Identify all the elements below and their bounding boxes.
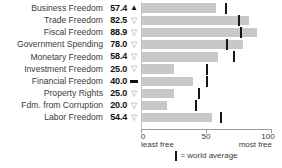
chart-row: Trade Freedom 82.5 ▽ bbox=[0, 14, 272, 26]
score-bar bbox=[141, 16, 249, 25]
legend-label: = world average bbox=[180, 152, 237, 160]
chart-rows: Business Freedom 57.4 ▲ Trade Freedom 82… bbox=[0, 2, 272, 124]
trend-down-icon: ▽ bbox=[127, 114, 141, 122]
score-bar bbox=[141, 77, 193, 86]
trend-down-icon: ▽ bbox=[127, 53, 141, 61]
score-bar bbox=[141, 89, 174, 98]
score-value: 54.4 bbox=[103, 113, 127, 122]
score-bar bbox=[141, 52, 218, 61]
bar-track bbox=[141, 87, 272, 99]
trend-down-icon: ▽ bbox=[127, 65, 141, 73]
no-change-dash bbox=[130, 80, 138, 83]
score-value: 20.0 bbox=[103, 101, 127, 110]
category-label: Trade Freedom bbox=[0, 16, 103, 25]
category-label: Property Rights bbox=[0, 89, 103, 98]
y-axis-line bbox=[141, 2, 142, 130]
category-label: Fdm. from Corruption bbox=[0, 101, 103, 110]
score-bar bbox=[141, 64, 174, 73]
score-value: 58.4 bbox=[103, 52, 127, 61]
category-label: Investment Freedom bbox=[0, 65, 103, 74]
score-value: 88.9 bbox=[103, 28, 127, 37]
bar-track bbox=[141, 2, 272, 14]
chart-row: Investment Freedom 25.0 ▽ bbox=[0, 63, 272, 75]
chart-row: Government Spending 78.0 ▽ bbox=[0, 39, 272, 51]
world-average-marker bbox=[225, 3, 227, 14]
bar-track bbox=[141, 26, 272, 38]
score-bar bbox=[141, 113, 212, 122]
no-change-icon bbox=[127, 77, 141, 85]
world-average-marker bbox=[240, 27, 242, 38]
world-average-marker bbox=[220, 112, 222, 123]
category-label: Labor Freedom bbox=[0, 113, 103, 122]
trend-down-icon: ▽ bbox=[127, 29, 141, 37]
world-average-marker bbox=[206, 76, 208, 87]
chart-row: Fdm. from Corruption 20.0 ▽ bbox=[0, 100, 272, 112]
world-average-legend-icon bbox=[175, 151, 177, 161]
chart-row: Labor Freedom 54.4 ▽ bbox=[0, 112, 272, 124]
category-label: Business Freedom bbox=[0, 4, 103, 13]
score-bar bbox=[141, 101, 167, 110]
score-value: 40.0 bbox=[103, 77, 127, 86]
bar-track bbox=[141, 39, 272, 51]
chart-row: Financial Freedom 40.0 bbox=[0, 75, 272, 87]
bar-track bbox=[141, 51, 272, 63]
score-value: 82.5 bbox=[103, 16, 127, 25]
bar-track bbox=[141, 112, 272, 124]
trend-down-icon: ▽ bbox=[127, 41, 141, 49]
score-bar bbox=[141, 3, 216, 12]
score-value: 78.0 bbox=[103, 40, 127, 49]
chart-row: Property Rights 25.0 ▽ bbox=[0, 87, 272, 99]
trend-down-icon: ▽ bbox=[127, 17, 141, 25]
score-value: 25.0 bbox=[103, 89, 127, 98]
trend-down-icon: ▽ bbox=[127, 102, 141, 110]
economic-freedoms-chart: Business Freedom 57.4 ▲ Trade Freedom 82… bbox=[0, 0, 282, 168]
score-value: 57.4 bbox=[103, 4, 127, 13]
axis-caption-most-free: most free bbox=[141, 141, 272, 149]
category-label: Fiscal Freedom bbox=[0, 28, 103, 37]
bar-track bbox=[141, 63, 272, 75]
category-label: Government Spending bbox=[0, 40, 103, 49]
world-average-marker bbox=[233, 51, 235, 62]
chart-row: Business Freedom 57.4 ▲ bbox=[0, 2, 272, 14]
world-average-marker bbox=[226, 39, 228, 50]
world-average-marker bbox=[195, 100, 197, 111]
chart-row: Monetary Freedom 58.4 ▽ bbox=[0, 51, 272, 63]
legend: = world average bbox=[141, 151, 272, 161]
world-average-marker bbox=[238, 15, 240, 26]
chart-row: Fiscal Freedom 88.9 ▽ bbox=[0, 26, 272, 38]
bar-track bbox=[141, 14, 272, 26]
trend-up-icon: ▲ bbox=[127, 4, 141, 12]
category-label: Financial Freedom bbox=[0, 77, 103, 86]
trend-down-icon: ▽ bbox=[127, 90, 141, 98]
bar-track bbox=[141, 75, 272, 87]
category-label: Monetary Freedom bbox=[0, 53, 103, 62]
world-average-marker bbox=[206, 64, 208, 75]
bar-track bbox=[141, 100, 272, 112]
score-value: 25.0 bbox=[103, 65, 127, 74]
world-average-marker bbox=[198, 88, 200, 99]
